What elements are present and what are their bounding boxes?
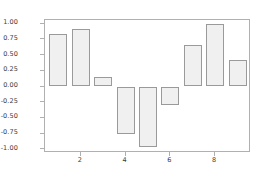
y-axis-tick-mark: [40, 54, 44, 55]
x-axis-tick-mark: [169, 152, 170, 156]
y-axis-tick-mark: [40, 38, 44, 39]
y-axis-tick-label: 0.25: [0, 66, 18, 73]
bar: [184, 45, 202, 86]
y-axis-tick-label: 0.50: [0, 51, 18, 58]
bar: [49, 34, 67, 87]
figure-canvas: 1.000.750.500.250.00-0.25-0.50-0.75-1.00…: [0, 0, 268, 180]
x-axis-tick-mark: [125, 152, 126, 156]
x-axis-tick-mark: [214, 152, 215, 156]
x-axis-tick-label: 8: [204, 157, 224, 164]
y-axis-tick-mark: [40, 101, 44, 102]
bar: [72, 29, 90, 87]
bar: [161, 87, 179, 105]
x-axis-tick-label: 4: [115, 157, 135, 164]
y-axis-tick-mark: [40, 86, 44, 87]
x-axis-tick-mark: [80, 152, 81, 156]
bar: [229, 60, 247, 86]
y-axis-tick-label: 1.00: [0, 19, 18, 26]
y-axis-tick-label: 0.75: [0, 35, 18, 42]
y-axis-tick-label: 0.00: [0, 82, 18, 89]
y-axis-tick-mark: [40, 70, 44, 71]
y-axis-tick-label: -0.50: [0, 113, 18, 120]
chart-axes: [44, 19, 250, 152]
y-axis-tick-mark: [40, 117, 44, 118]
x-axis-tick-label: 6: [159, 157, 179, 164]
bar: [117, 87, 135, 135]
plot-area: [45, 20, 249, 151]
bar: [139, 87, 157, 147]
bar: [206, 24, 224, 86]
y-axis-tick-label: -1.00: [0, 145, 18, 152]
y-axis-tick-mark: [40, 23, 44, 24]
x-axis-tick-label: 2: [70, 157, 90, 164]
y-axis-tick-label: -0.75: [0, 129, 18, 136]
y-axis-tick-mark: [40, 133, 44, 134]
y-axis-tick-label: -0.25: [0, 98, 18, 105]
bar: [94, 77, 112, 86]
y-axis-tick-mark: [40, 148, 44, 149]
